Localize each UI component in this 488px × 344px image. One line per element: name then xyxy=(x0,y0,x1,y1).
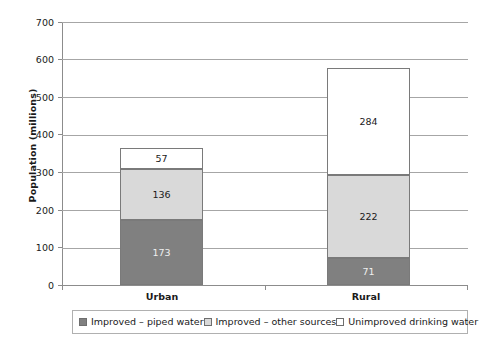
stacked-bar-chart: Population (millions) 700 600 500 400 30… xyxy=(0,0,488,344)
legend-swatch-icon-other-sources xyxy=(204,318,212,326)
legend-label-piped-water: Improved – piped water xyxy=(91,317,204,327)
legend-label-unimproved: Unimproved drinking water xyxy=(348,317,478,327)
legend-swatch-icon-unimproved xyxy=(336,318,344,326)
bar-urban-other[interactable]: 136 xyxy=(120,169,203,220)
legend-swatch-icon-piped-water xyxy=(79,318,87,326)
bar-urban-unimproved[interactable]: 57 xyxy=(120,148,203,169)
bar-value-urban-unimproved: 57 xyxy=(155,154,167,164)
y-tick-label-200: 200 xyxy=(10,206,54,216)
bar-value-rural-piped: 71 xyxy=(362,267,374,277)
gridline-600 xyxy=(62,59,468,60)
bar-rural-piped[interactable]: 71 xyxy=(327,258,410,285)
y-tick-label-300: 300 xyxy=(10,168,54,178)
x-category-label-rural: Rural xyxy=(306,291,426,302)
gridline-700 xyxy=(62,22,468,23)
legend-label-other-sources: Improved – other sources xyxy=(216,317,337,327)
plot-area: 57 136 173 284 222 71 xyxy=(62,22,468,285)
legend-item-piped-water[interactable]: Improved – piped water xyxy=(79,317,204,327)
y-tick-label-600: 600 xyxy=(10,55,54,65)
chart-legend: Improved – piped water Improved – other … xyxy=(72,310,468,334)
y-tick-label-0: 0 xyxy=(10,281,54,291)
y-tick-label-100: 100 xyxy=(10,243,54,253)
x-tick-mark-left xyxy=(62,286,63,290)
x-category-label-urban: Urban xyxy=(102,291,222,302)
x-tick-mark-right xyxy=(467,286,468,290)
y-tick-label-700: 700 xyxy=(10,18,54,28)
x-tick-mark-middle xyxy=(265,286,266,290)
legend-item-other-sources[interactable]: Improved – other sources xyxy=(204,317,337,327)
bar-rural-other[interactable]: 222 xyxy=(327,175,410,258)
bar-value-urban-other: 136 xyxy=(152,190,170,200)
bar-value-urban-piped: 173 xyxy=(152,248,170,258)
bar-value-rural-unimproved: 284 xyxy=(359,117,377,127)
y-tick-label-400: 400 xyxy=(10,130,54,140)
bar-urban-piped[interactable]: 173 xyxy=(120,220,203,285)
bar-value-rural-other: 222 xyxy=(359,212,377,222)
legend-item-unimproved[interactable]: Unimproved drinking water xyxy=(336,317,478,327)
bar-rural-unimproved[interactable]: 284 xyxy=(327,68,410,175)
y-tick-label-500: 500 xyxy=(10,93,54,103)
